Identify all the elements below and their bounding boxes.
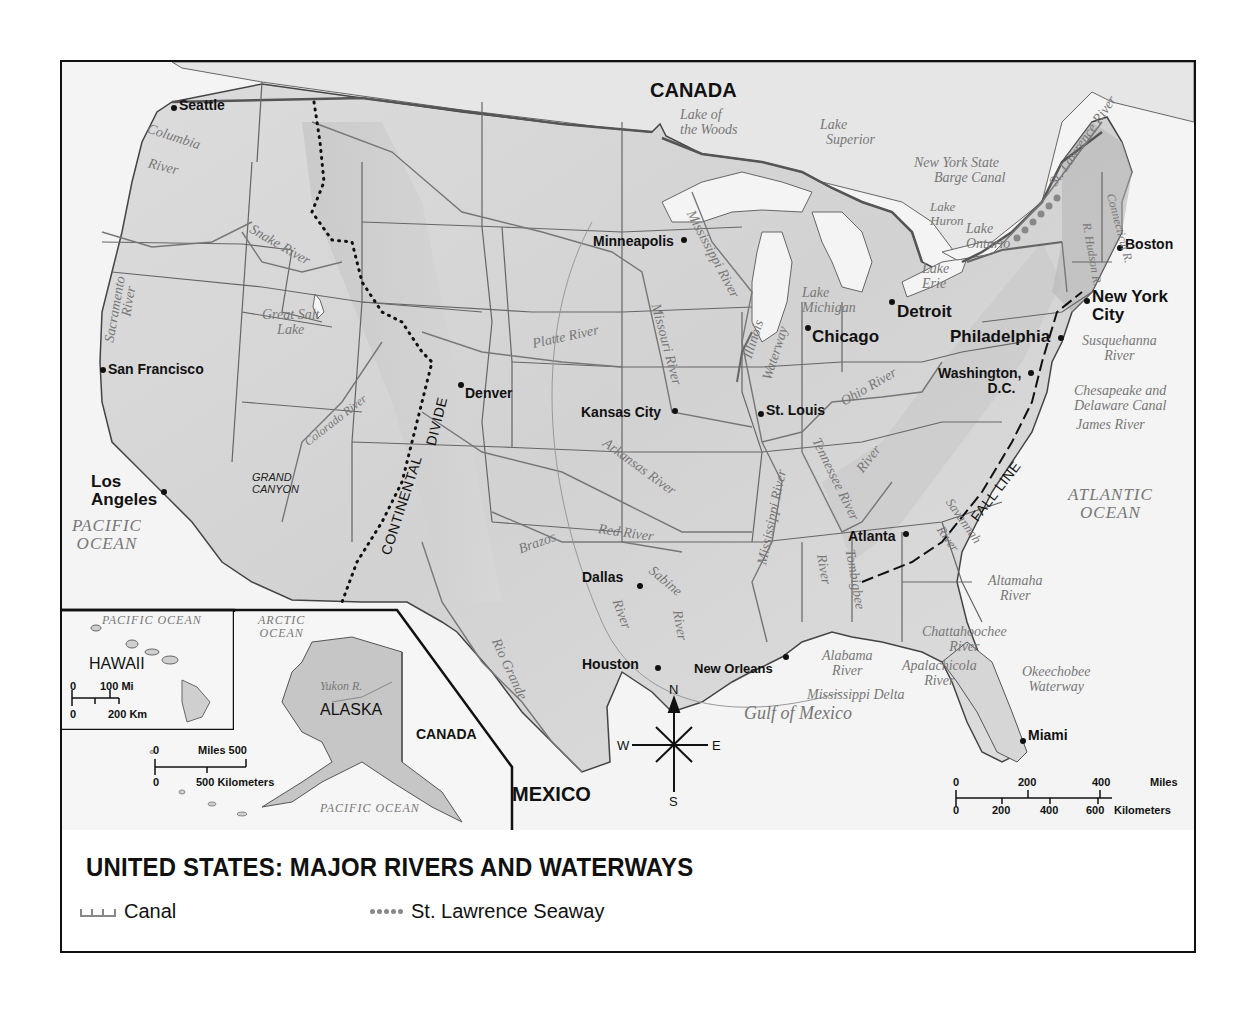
legend-label-canal: Canal [124,900,176,923]
scale-km-unit: Kilometers [1114,804,1171,816]
map-frame: CANADA MEXICO CANADA PACIFIC OCEAN ATLAN… [60,60,1196,953]
canal-label-chesapeake-delaware: Chesapeake and Delaware Canal [1074,384,1166,413]
city-label-houston: Houston [582,657,639,672]
city-label-dallas: Dallas [582,570,623,585]
canal-symbol-icon [80,907,116,917]
scale-km-0: 0 [953,804,959,816]
city-label-denver: Denver [465,386,512,401]
canal-label-ny-state-barge: New York State Barge Canal [914,156,1005,185]
ocean-label-line: ATLANTIC [1068,486,1153,504]
city-label-new-york-city: New York City [1092,288,1168,324]
feature-label-line: CANYON [252,484,299,496]
lake-label-superior: Lake Superior [820,118,875,147]
city-dot-new-york-city [1084,298,1090,304]
map-area: CANADA MEXICO CANADA PACIFIC OCEAN ATLAN… [62,62,1194,832]
hawaii-scale-miles: 100 Mi [100,680,134,692]
city-dot-seattle [171,105,177,111]
compass-west: W [617,738,629,753]
lake-label-huron: Lake Huron [930,200,963,227]
river-label-line: Waterway [1022,680,1090,695]
lake-label-lake-of-the-woods: Lake of the Woods [680,108,737,137]
alaska-scale-km-zero: 0 [153,776,159,788]
ocean-label-pacific-hawaii: PACIFIC OCEAN [102,614,202,627]
river-label-altamaha: Altamaha River [988,574,1042,603]
canal-label-line: New York State [914,156,1005,171]
lake-label-line: Lake [966,222,1010,237]
city-label-detroit: Detroit [897,303,952,321]
inset-label-hawaii: HAWAII [89,656,145,673]
lake-label-ontario: Lake Ontario [966,222,1010,251]
river-label-chattahoochee: Chattahoochee River [922,625,1007,654]
ocean-label-line: OCEAN [72,535,142,553]
city-dot-chicago [805,325,811,331]
lake-label-line: Lake [922,262,949,277]
canal-label-line: Delaware Canal [1074,399,1166,414]
legend-item-canal: Canal [80,900,176,923]
river-label-line: Susquehanna [1082,334,1157,349]
canal-label-line: Barge Canal [914,171,1005,186]
lake-label-line: Michigan [802,301,856,316]
label-grand-canyon: GRAND CANYON [252,472,299,495]
city-label-washington-dc: Washington, D.C. [938,366,1021,395]
city-label-line: Los [91,473,157,491]
city-label-line: Washington, [938,366,1021,381]
alaska-scale-miles-zero: 0 [153,744,159,756]
city-dot-miami [1020,738,1026,744]
river-label-line: Altamaha [988,574,1042,589]
city-label-line: D.C. [938,381,1021,396]
ocean-label-line: OCEAN [258,627,305,640]
city-label-los-angeles: Los Angeles [91,473,157,509]
hawaii-scale-km-zero: 0 [70,708,76,720]
ocean-label-gulf-of-mexico: Gulf of Mexico [744,704,852,723]
city-dot-minneapolis [681,237,687,243]
river-label-line: Alabama [822,649,873,664]
label-mississippi-delta: Mississippi Delta [807,688,905,703]
lake-label-line: Lake [930,200,963,214]
compass-south: S [669,794,678,809]
alaska-scale-miles: Miles 500 [198,744,247,756]
city-label-line: Angeles [91,491,157,509]
city-dot-new-orleans [783,654,789,660]
hawaii-scale-miles-zero: 0 [70,680,76,692]
river-label-yukon: Yukon R. [320,680,362,693]
river-label-line: Okeechobee [1022,665,1090,680]
lake-label-line: Ontario [966,237,1010,252]
city-dot-detroit [889,299,895,305]
city-label-chicago: Chicago [812,328,879,346]
river-label-apalachicola: Apalachicola River [902,659,977,688]
river-label-line: Apalachicola [902,659,977,674]
lake-label-line: Erie [922,277,949,292]
map-title: UNITED STATES: MAJOR RIVERS AND WATERWAY… [86,852,693,883]
city-dot-denver [458,382,464,388]
ocean-label-pacific-alaska: PACIFIC OCEAN [320,802,420,815]
scale-km-400: 400 [1040,804,1058,816]
city-dot-atlanta [903,531,909,537]
alaska-scale-km: 500 Kilometers [196,776,274,788]
lake-label-line: Superior [820,133,875,148]
lake-label-line: Lake [820,118,875,133]
city-label-line: New York [1092,288,1168,306]
city-label-miami: Miami [1028,728,1068,743]
ocean-label-line: PACIFIC [72,517,142,535]
river-label-line: River [1082,349,1157,364]
seaway-dots-icon [370,909,403,914]
inset-label-alaska: ALASKA [320,702,382,719]
legend-label-seaway: St. Lawrence Seaway [411,900,604,923]
ocean-label-pacific: PACIFIC OCEAN [72,517,142,553]
city-dot-san-francisco [100,367,106,373]
city-dot-los-angeles [161,489,167,495]
scale-miles-400: 400 [1092,776,1110,788]
canal-label-line: Chesapeake and [1074,384,1166,399]
us-map-graphic [62,62,1194,830]
lake-label-line: Great Salt [262,308,319,323]
city-label-new-orleans: New Orleans [694,662,773,676]
river-label-line: River [988,589,1042,604]
city-label-st-louis: St. Louis [766,403,825,418]
city-dot-dallas [637,583,643,589]
river-label-line: River [822,664,873,679]
lake-label-great-salt: Great Salt Lake [262,308,319,337]
country-label-canada: CANADA [650,80,737,101]
lake-label-line: Lake [262,323,319,338]
ocean-label-arctic: ARCTIC OCEAN [258,614,305,639]
legend-item-seaway: St. Lawrence Seaway [370,900,604,923]
